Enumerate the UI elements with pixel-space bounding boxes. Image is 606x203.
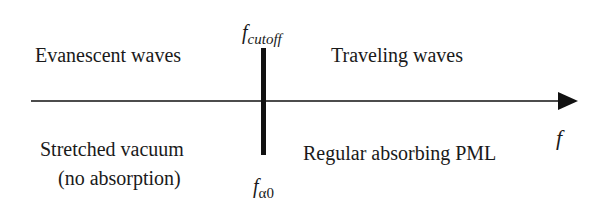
cutoff-divider-bar [261, 48, 266, 155]
cutoff-label-base: f [242, 21, 248, 43]
frequency-regime-diagram: fcutoff Evanescent waves Traveling waves… [0, 0, 606, 203]
alpha0-frequency-label: fα0 [253, 176, 274, 196]
alpha0-label-base: f [253, 175, 259, 197]
regular-absorbing-pml-label: Regular absorbing PML [303, 143, 496, 163]
stretched-vacuum-label: Stretched vacuum [40, 139, 184, 159]
cutoff-frequency-label: fcutoff [242, 22, 282, 42]
cutoff-label-subscript: cutoff [248, 31, 282, 47]
no-absorption-label: (no absorption) [58, 168, 181, 188]
evanescent-waves-label: Evanescent waves [35, 45, 181, 65]
alpha0-label-subscript: α0 [259, 185, 274, 201]
axis-arrowhead-icon [558, 92, 578, 110]
traveling-waves-label: Traveling waves [331, 45, 463, 65]
frequency-axis-label: f [556, 127, 562, 149]
